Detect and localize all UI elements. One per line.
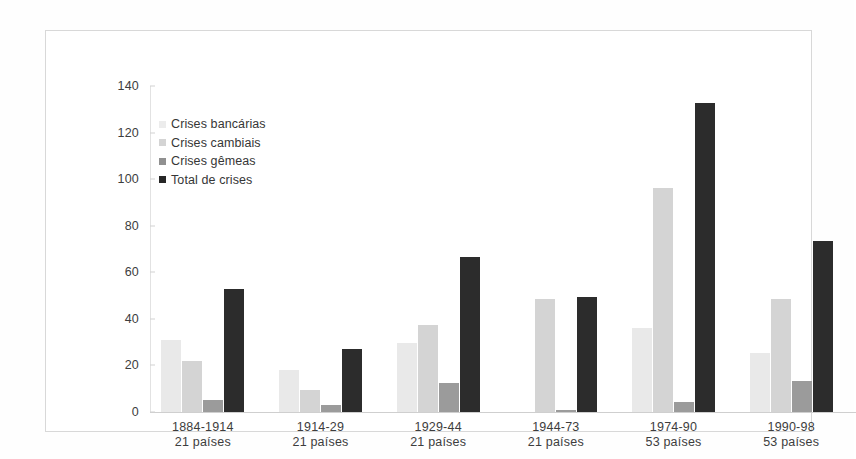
- x-axis-label-period: 1990-98: [763, 420, 819, 435]
- bar-group: 1990-9853 países: [732, 86, 850, 412]
- bar-group-bars: [161, 86, 244, 412]
- bar-group: 1914-2921 países: [262, 86, 380, 412]
- x-axis-line: [150, 412, 856, 413]
- bar-group: 1944-7321 países: [497, 86, 615, 412]
- x-axis-label-countries: 53 países: [763, 435, 819, 450]
- x-axis-label-countries: 53 países: [645, 435, 701, 450]
- bar-currency[interactable]: [535, 299, 555, 412]
- bar-currency[interactable]: [182, 361, 202, 412]
- bar-currency[interactable]: [771, 299, 791, 412]
- bar-currency[interactable]: [653, 188, 673, 412]
- x-axis-group-label: 1884-191421 países: [172, 420, 234, 450]
- y-axis-tick-label: 40: [46, 312, 139, 326]
- bar-banking[interactable]: [279, 370, 299, 412]
- bar-group-bars: [397, 86, 480, 412]
- bar-currency[interactable]: [300, 390, 320, 412]
- bar-banking[interactable]: [161, 340, 181, 412]
- x-axis-group-label: 1914-2921 países: [292, 420, 348, 450]
- x-axis-label-period: 1944-73: [528, 420, 584, 435]
- bar-currency[interactable]: [418, 325, 438, 412]
- bar-total[interactable]: [695, 103, 715, 412]
- bar-twin[interactable]: [792, 381, 812, 412]
- bar-group: 1929-4421 países: [379, 86, 497, 412]
- y-axis-tick-label: 0: [46, 405, 139, 419]
- x-axis-group-label: 1974-9053 países: [645, 420, 701, 450]
- x-axis-label-period: 1974-90: [645, 420, 701, 435]
- x-axis-label-countries: 21 países: [292, 435, 348, 450]
- bar-banking[interactable]: [632, 328, 652, 412]
- x-axis-label-countries: 21 países: [172, 435, 234, 450]
- bar-total[interactable]: [813, 241, 833, 412]
- bar-total[interactable]: [577, 297, 597, 412]
- bar-total[interactable]: [460, 257, 480, 412]
- x-axis-label-countries: 21 países: [528, 435, 584, 450]
- y-axis-tick-label: 80: [46, 219, 139, 233]
- y-axis-tick-label: 120: [46, 126, 139, 140]
- bar-group: 1884-191421 países: [144, 86, 262, 412]
- bar-group-bars: [514, 86, 597, 412]
- chart-frame: 020406080100120140 Crises bancáriasCrise…: [45, 30, 812, 432]
- bar-group-bars: [750, 86, 833, 412]
- bar-twin[interactable]: [556, 410, 576, 412]
- y-axis-tick-label: 140: [46, 79, 139, 93]
- x-axis-label-countries: 21 países: [410, 435, 466, 450]
- x-axis-label-period: 1929-44: [410, 420, 466, 435]
- x-axis-label-period: 1884-1914: [172, 420, 234, 435]
- bar-group-bars: [632, 86, 715, 412]
- x-axis-group-label: 1944-7321 países: [528, 420, 584, 450]
- bar-group: 1974-9053 países: [615, 86, 733, 412]
- x-axis-group-label: 1990-9853 países: [763, 420, 819, 450]
- bar-banking[interactable]: [750, 353, 770, 412]
- y-axis-tick-label: 20: [46, 358, 139, 372]
- bar-twin[interactable]: [321, 405, 341, 412]
- bar-twin[interactable]: [203, 400, 223, 412]
- bar-total[interactable]: [342, 349, 362, 412]
- bar-total[interactable]: [224, 289, 244, 412]
- y-axis-tick-label: 60: [46, 265, 139, 279]
- y-axis-tick-label: 100: [46, 172, 139, 186]
- bar-group-bars: [279, 86, 362, 412]
- x-axis-label-period: 1914-29: [292, 420, 348, 435]
- bar-twin[interactable]: [439, 383, 459, 412]
- bar-twin[interactable]: [674, 402, 694, 412]
- x-axis-group-label: 1929-4421 países: [410, 420, 466, 450]
- bar-banking[interactable]: [397, 343, 417, 412]
